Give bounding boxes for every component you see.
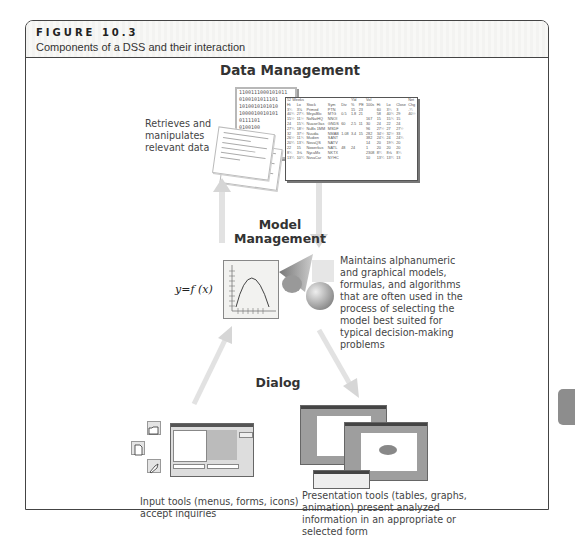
figure-label: FIGURE 10.3 — [36, 27, 139, 38]
presentation-screens — [300, 405, 430, 487]
open-folder-icon — [147, 421, 161, 435]
model-management-title: Model Management — [220, 218, 340, 246]
3d-shapes-icon — [277, 252, 342, 317]
chapter-tab-marker — [558, 389, 575, 425]
arrow-up-dialog-to-model — [188, 326, 238, 406]
stock-table: 52 Weeks Yld Vol Net Hi Lo Stock Sym Div… — [286, 98, 417, 160]
new-document-icon — [131, 441, 145, 455]
parabola-graph — [223, 260, 279, 319]
dialog-title: Dialog — [248, 375, 308, 390]
table-row: 13¼10¼NvsaCarNYHC1013¼13¼13 — [286, 156, 417, 161]
data-sheet-paper — [212, 126, 275, 180]
input-form-window — [170, 423, 254, 477]
input-tools-description: Input tools (menus, forms, icons) accept… — [140, 496, 298, 520]
formula-label: y=f (x) — [175, 283, 213, 296]
figure-header: FIGURE 10.3 Components of a DSS and thei… — [26, 21, 548, 58]
stock-table-window: 52 Weeks Yld Vol Net Hi Lo Stock Sym Div… — [285, 97, 418, 181]
data-management-title: Data Management — [220, 62, 360, 78]
stock-table-header: Hi Lo Stock Sym Div % PE 100s Hi Lo Clos… — [286, 103, 417, 108]
presentation-tools-description: Presentation tools (tables, graphs, anim… — [302, 490, 467, 538]
data-management-description: Retrieves and manipulates relevant data — [145, 118, 211, 154]
figure-caption: Components of a DSS and their interactio… — [36, 41, 245, 53]
model-management-description: Maintains alphanumeric and graphical mod… — [340, 255, 463, 351]
parabola-curve-icon — [224, 261, 278, 318]
paint-brush-icon — [147, 459, 161, 473]
